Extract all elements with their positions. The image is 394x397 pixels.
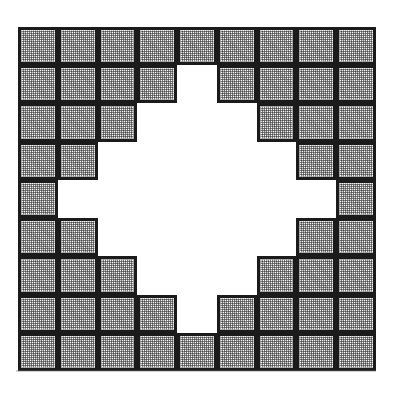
tile-filled bbox=[336, 295, 376, 333]
tile-filled bbox=[18, 295, 58, 333]
tile-filled bbox=[257, 27, 297, 65]
tile-filled bbox=[217, 295, 257, 333]
tile-filled bbox=[336, 65, 376, 103]
tile-filled bbox=[58, 295, 98, 333]
tile-filled bbox=[177, 333, 217, 371]
tile-filled bbox=[18, 142, 58, 180]
tile-filled bbox=[177, 27, 217, 65]
tile-empty bbox=[217, 103, 257, 141]
tile-filled bbox=[58, 333, 98, 371]
scan-edge-artifact bbox=[16, 370, 376, 372]
tile-filled bbox=[58, 103, 98, 141]
tile-empty bbox=[217, 256, 257, 294]
tile-empty bbox=[177, 103, 217, 141]
tile-filled bbox=[217, 27, 257, 65]
tile-filled bbox=[18, 256, 58, 294]
tile-filled bbox=[98, 256, 138, 294]
tile-filled bbox=[336, 180, 376, 218]
tile-empty bbox=[257, 218, 297, 256]
tile-empty bbox=[177, 180, 217, 218]
tile-empty bbox=[177, 65, 217, 103]
tile-filled bbox=[296, 142, 336, 180]
tile-filled bbox=[296, 65, 336, 103]
tile-filled bbox=[137, 295, 177, 333]
tile-filled bbox=[98, 295, 138, 333]
tile-filled bbox=[98, 333, 138, 371]
tile-filled bbox=[296, 256, 336, 294]
tile-filled bbox=[137, 333, 177, 371]
tile-filled bbox=[257, 256, 297, 294]
tile-filled bbox=[98, 65, 138, 103]
tile-grid bbox=[18, 27, 376, 371]
tile-empty bbox=[177, 218, 217, 256]
tile-filled bbox=[18, 333, 58, 371]
tile-empty bbox=[58, 180, 98, 218]
tile-empty bbox=[137, 256, 177, 294]
tile-filled bbox=[336, 333, 376, 371]
tile-empty bbox=[177, 256, 217, 294]
tile-filled bbox=[18, 218, 58, 256]
tile-filled bbox=[296, 27, 336, 65]
tile-filled bbox=[336, 142, 376, 180]
tile-empty bbox=[98, 180, 138, 218]
tile-filled bbox=[18, 180, 58, 218]
tile-filled bbox=[257, 333, 297, 371]
figure-canvas bbox=[0, 0, 394, 397]
tile-empty bbox=[217, 142, 257, 180]
tile-empty bbox=[137, 103, 177, 141]
tile-filled bbox=[58, 27, 98, 65]
tile-empty bbox=[137, 142, 177, 180]
tile-empty bbox=[177, 295, 217, 333]
tile-filled bbox=[257, 103, 297, 141]
tile-filled bbox=[98, 27, 138, 65]
tile-filled bbox=[257, 295, 297, 333]
tile-filled bbox=[336, 218, 376, 256]
tile-filled bbox=[58, 218, 98, 256]
tile-empty bbox=[217, 180, 257, 218]
tile-empty bbox=[137, 218, 177, 256]
tile-filled bbox=[58, 256, 98, 294]
tile-empty bbox=[296, 180, 336, 218]
tile-filled bbox=[296, 218, 336, 256]
tile-filled bbox=[137, 27, 177, 65]
tile-filled bbox=[257, 65, 297, 103]
tile-filled bbox=[18, 103, 58, 141]
tile-filled bbox=[217, 65, 257, 103]
tile-filled bbox=[296, 295, 336, 333]
tile-filled bbox=[296, 103, 336, 141]
tile-empty bbox=[98, 142, 138, 180]
tile-filled bbox=[336, 27, 376, 65]
tile-empty bbox=[98, 218, 138, 256]
tile-empty bbox=[137, 180, 177, 218]
tile-filled bbox=[336, 256, 376, 294]
tile-filled bbox=[296, 333, 336, 371]
tile-empty bbox=[257, 142, 297, 180]
tile-empty bbox=[177, 142, 217, 180]
tile-filled bbox=[336, 103, 376, 141]
tile-filled bbox=[58, 65, 98, 103]
tile-filled bbox=[98, 103, 138, 141]
tile-empty bbox=[257, 180, 297, 218]
tile-filled bbox=[217, 333, 257, 371]
tile-filled bbox=[18, 65, 58, 103]
tile-filled bbox=[137, 65, 177, 103]
tile-filled bbox=[18, 27, 58, 65]
tile-filled bbox=[58, 142, 98, 180]
tile-empty bbox=[217, 218, 257, 256]
